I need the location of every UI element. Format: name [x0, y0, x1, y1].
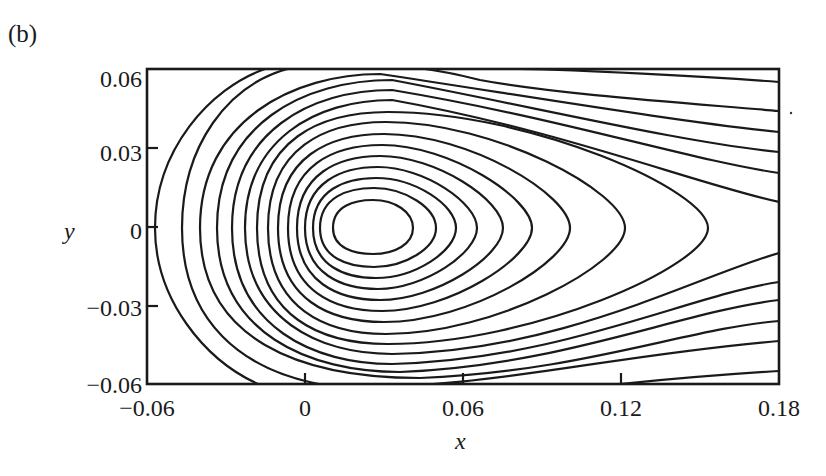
- contour-lines: [155, 62, 779, 387]
- speck: [790, 112, 792, 114]
- contour-line: [333, 200, 413, 254]
- contour-line: [313, 178, 456, 278]
- contour-line: [305, 167, 477, 289]
- contour-line: [278, 134, 570, 322]
- contour-line: [297, 156, 503, 300]
- contour-line: [268, 122, 625, 334]
- contour-plot: [0, 0, 826, 476]
